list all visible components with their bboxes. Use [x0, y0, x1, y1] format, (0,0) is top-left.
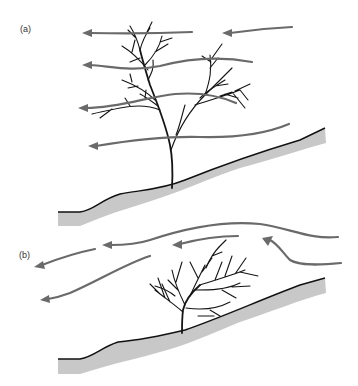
panel-b	[34, 223, 341, 374]
ground-slope-b	[58, 278, 325, 359]
arrowhead-icon	[78, 104, 88, 112]
wind-arrow-a4	[86, 93, 236, 108]
wind-arrow-a2	[230, 27, 292, 33]
panel-a	[58, 22, 326, 226]
wind-arrow-b2	[180, 236, 238, 244]
ground-slope-a	[58, 128, 325, 212]
wind-arrow-a3	[90, 59, 252, 69]
arrowhead-icon	[88, 142, 98, 150]
arrowhead-icon	[82, 61, 92, 69]
arrowhead-icon	[40, 295, 50, 303]
arrowhead-icon	[102, 241, 112, 249]
wind-arrows-a	[78, 27, 292, 150]
diagram-canvas	[0, 0, 358, 386]
arrowhead-icon	[172, 240, 182, 249]
wind-arrow-b4	[42, 249, 95, 265]
arrowhead-icon	[222, 29, 232, 37]
arrowhead-icon	[34, 261, 45, 269]
wind-arrow-b3	[270, 240, 341, 265]
wind-arrow-a1	[90, 32, 192, 33]
wind-arrow-b5	[48, 256, 150, 299]
wind-arrow-a5	[96, 124, 289, 146]
arrowhead-icon	[82, 29, 92, 37]
